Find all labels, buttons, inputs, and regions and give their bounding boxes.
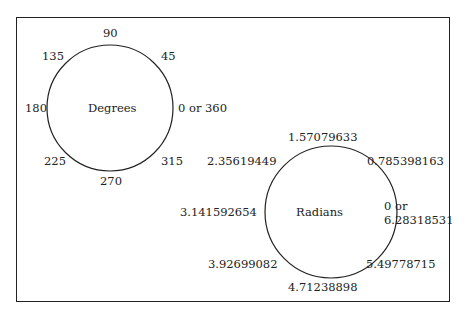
label-0-360: 0 or 360 [178,102,227,115]
label-1-57: 1.57079633 [288,131,358,144]
label-90: 90 [103,27,118,40]
label-315: 315 [161,155,183,168]
radians-title: Radians [296,206,343,219]
label-5-49: 5.49778715 [366,258,436,271]
label-3-14: 3.141592654 [180,206,257,219]
label-2-35: 2.35619449 [207,155,277,168]
label-180: 180 [25,102,47,115]
label-3-92: 3.92699082 [208,258,278,271]
label-270: 270 [100,175,122,188]
label-0-or: 0 or [384,200,407,213]
label-135: 135 [42,50,64,63]
label-0-785: 0.785398163 [367,155,444,168]
label-225: 225 [44,155,66,168]
label-6-28: 6.28318531 [384,214,454,227]
label-45: 45 [161,50,176,63]
degrees-title: Degrees [88,102,136,115]
label-4-71: 4.71238898 [288,281,358,294]
